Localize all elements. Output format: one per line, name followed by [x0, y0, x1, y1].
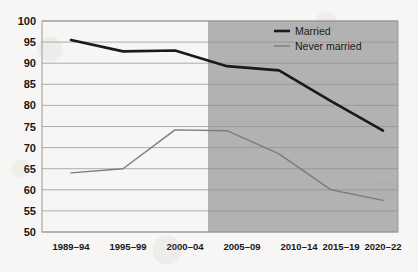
y-tick-label: 70	[24, 142, 36, 154]
x-axis: 1989–94 1995–99 2000–04 2005–09 2010–14 …	[53, 241, 402, 252]
legend-label-married: Married	[295, 25, 331, 37]
y-tick-label: 90	[24, 57, 36, 69]
y-axis: 100 95 90 85 80 75 70 65 60 55 50	[18, 15, 36, 238]
y-tick-label: 80	[24, 99, 36, 111]
y-tick-label: 85	[24, 78, 36, 90]
line-chart: 100 95 90 85 80 75 70 65 60 55 50 1989–9…	[0, 0, 418, 272]
x-tick-label: 2000–04	[167, 241, 205, 252]
y-tick-label: 55	[24, 205, 36, 217]
x-tick-label: 2015–19	[323, 241, 360, 252]
x-tick-label: 1995–99	[110, 241, 147, 252]
x-tick-label: 2005–09	[224, 241, 261, 252]
y-tick-label: 65	[24, 163, 36, 175]
y-tick-label: 75	[24, 121, 36, 133]
y-tick-label: 60	[24, 184, 36, 196]
x-tick-label: 2020–22	[365, 241, 402, 252]
legend-label-never-married: Never married	[295, 40, 362, 52]
x-tick-label: 1989–94	[53, 241, 91, 252]
y-tick-label: 100	[18, 15, 36, 27]
y-tick-label: 95	[24, 36, 36, 48]
chart-container: 100 95 90 85 80 75 70 65 60 55 50 1989–9…	[0, 0, 418, 272]
x-tick-label: 2010–14	[281, 241, 319, 252]
y-tick-label: 50	[24, 226, 36, 238]
